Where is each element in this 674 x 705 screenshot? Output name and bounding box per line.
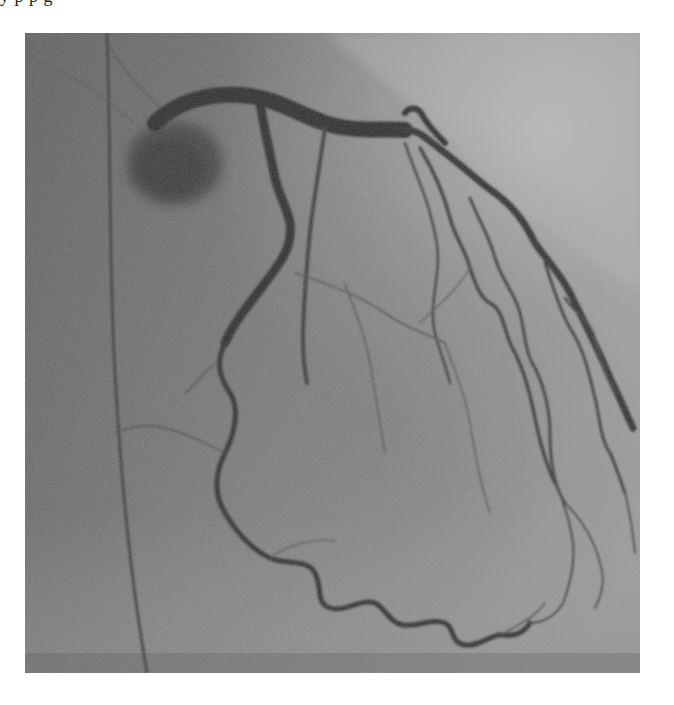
angiogram-figure: [25, 33, 640, 673]
clipped-caption-text: y p p g: [0, 0, 674, 8]
caption-descenders: y p p g: [0, 0, 674, 8]
angiogram-image: [25, 33, 640, 673]
